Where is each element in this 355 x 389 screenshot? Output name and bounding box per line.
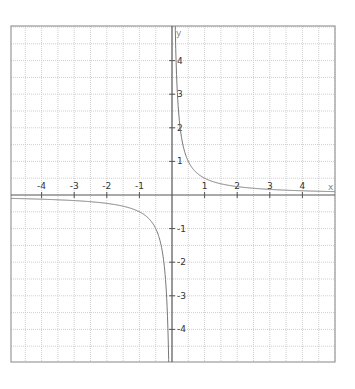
y-tick-label: -1 (177, 224, 186, 234)
curve-positive-branch (175, 8, 335, 191)
grid-lines (11, 26, 335, 362)
y-tick-label: 1 (177, 156, 183, 166)
x-tick-label: -2 (102, 181, 111, 191)
x-tick-label: 4 (300, 181, 306, 191)
y-tick-label: 4 (177, 56, 183, 66)
x-tick-label: -4 (37, 181, 46, 191)
x-axis-label: x (328, 182, 334, 192)
y-tick-label: -2 (177, 257, 186, 267)
x-tick-label: 1 (202, 181, 208, 191)
x-tick-label: -3 (70, 181, 79, 191)
y-tick-label: -3 (177, 291, 186, 301)
y-tick-label: -4 (177, 324, 186, 334)
y-axis-label: y (176, 28, 182, 38)
function-plot: -4-3-2-112344321-1-2-3-4 x y (0, 0, 355, 389)
x-tick-label: -1 (135, 181, 144, 191)
